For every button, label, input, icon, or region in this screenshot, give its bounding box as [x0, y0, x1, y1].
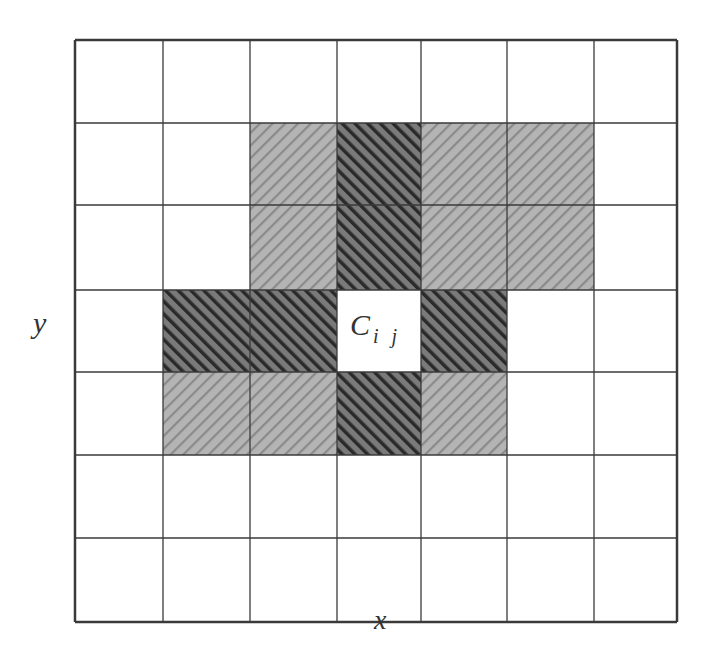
light-hatched-cell	[507, 123, 594, 205]
center-cell-label: Ci j	[350, 308, 401, 342]
light-hatched-cell	[421, 123, 507, 205]
light-hatched-cell	[250, 123, 337, 205]
light-hatched-cell	[421, 372, 507, 455]
dark-hatched-cell	[163, 290, 250, 372]
dark-hatched-cell	[337, 205, 421, 290]
dark-hatched-cell	[421, 290, 507, 372]
light-hatched-cell	[250, 205, 337, 290]
light-hatched-cell	[421, 205, 507, 290]
light-hatched-cell	[507, 205, 594, 290]
center-label-subscript: i j	[373, 325, 401, 347]
light-hatched-cell	[163, 372, 250, 455]
center-label-main: C	[350, 308, 370, 341]
light-hatched-cell	[250, 372, 337, 455]
x-axis-label: x	[374, 604, 386, 636]
dark-hatched-cell	[250, 290, 337, 372]
dark-hatched-cell	[337, 372, 421, 455]
dark-hatched-cell	[337, 123, 421, 205]
cells-layer	[163, 123, 594, 455]
y-axis-label: y	[33, 306, 46, 340]
